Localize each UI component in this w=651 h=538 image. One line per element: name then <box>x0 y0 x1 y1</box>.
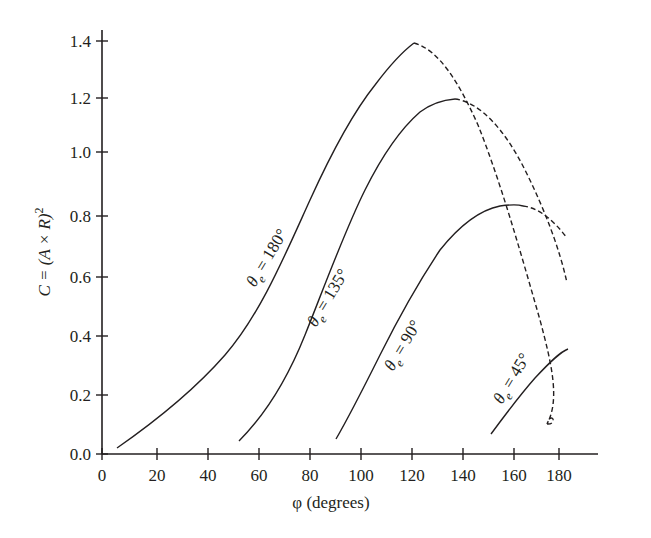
x-tick-label: 40 <box>200 466 217 485</box>
x-tick-label: 0 <box>98 466 107 485</box>
y-axis-title-sup: 2 <box>32 207 46 213</box>
curve-label-90: θe = 90° <box>380 317 428 376</box>
x-tick-label: 60 <box>251 466 268 485</box>
curve-label-45: θe = 45° <box>489 350 537 409</box>
curve-label-135: θe = 135° <box>303 265 356 332</box>
curve-90-solid <box>336 205 523 439</box>
x-axis-tick-labels: 0 20 40 60 80 100 120 140 160 180 <box>98 466 572 485</box>
x-axis-title: φ (degrees) <box>292 493 369 512</box>
curve-90-dashed <box>523 206 567 238</box>
x-tick-label: 160 <box>501 466 527 485</box>
axes <box>102 30 598 454</box>
y-tick-label: 0.6 <box>70 268 91 287</box>
curve-180-dashed <box>414 43 554 424</box>
x-tick-label: 80 <box>302 466 319 485</box>
series-theta-180 <box>117 43 554 448</box>
x-tick-label: 140 <box>450 466 476 485</box>
x-tick-label: 20 <box>149 466 166 485</box>
y-axis-title: C = (A × R)2 <box>32 207 54 296</box>
series-theta-90 <box>336 205 567 439</box>
y-axis-tick-labels: 0.0 0.2 0.4 0.6 0.8 1.0 1.2 1.4 <box>70 32 92 464</box>
x-tick-label: 120 <box>399 466 425 485</box>
y-axis-title-main: C = (A × R) <box>35 213 54 296</box>
chart: 0 20 40 60 80 100 120 140 160 180 0.0 0.… <box>0 0 651 538</box>
curve-label-180: θe = 180° <box>242 225 295 292</box>
curve-135-dashed <box>455 99 567 283</box>
y-tick-label: 1.0 <box>70 143 91 162</box>
curve-135-solid <box>239 99 455 441</box>
x-tick-label: 180 <box>546 466 572 485</box>
y-tick-label: 0.8 <box>70 207 91 226</box>
y-tick-label: 0.2 <box>70 386 91 405</box>
y-tick-label: 0.4 <box>70 327 92 346</box>
series-theta-135 <box>239 99 567 441</box>
y-tick-label: 1.2 <box>70 89 91 108</box>
x-tick-label: 100 <box>348 466 374 485</box>
y-tick-label: 1.4 <box>70 32 92 51</box>
y-tick-label: 0.0 <box>70 445 91 464</box>
